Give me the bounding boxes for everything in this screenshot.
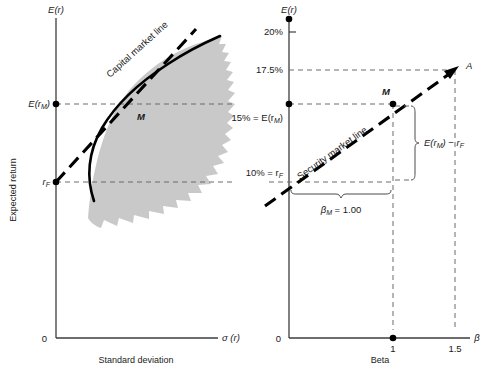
left-rf-point: [53, 179, 60, 186]
right-beta1-axis-point: [390, 335, 397, 342]
right-tick-15-label: 15% = E(rM): [231, 112, 283, 124]
right-origin-label: 0: [276, 333, 281, 344]
left-erm-tick-label: E(rM): [28, 98, 50, 110]
right-y-axis-top-point: [286, 16, 293, 23]
right-market-point-label: M: [382, 86, 391, 97]
left-x-axis-symbol: σ (r): [222, 332, 240, 343]
beta-brace: [291, 190, 391, 198]
figure-svg: 0 E(r) σ (r) E(rM) rF M Capital market l…: [0, 0, 491, 374]
right-x-axis-symbol: β: [473, 332, 480, 343]
right-x-axis-caption: Beta: [371, 355, 390, 365]
left-market-point-label: M: [137, 111, 146, 122]
right-tick-175-label: 17.5%: [256, 64, 283, 75]
left-y-axis-symbol: E(r): [48, 4, 64, 15]
right-tick-10-label: 10% = rF: [246, 167, 284, 179]
left-origin-label: 0: [42, 333, 47, 344]
right-xtick-1-label: 1: [390, 343, 395, 354]
left-rf-tick-label: rF: [43, 176, 51, 188]
figure-container: 0 E(r) σ (r) E(rM) rF M Capital market l…: [0, 0, 491, 374]
left-panel-group: 0 E(r) σ (r) E(rM) rF M Capital market l…: [8, 4, 240, 365]
security-market-line-label: Security market line: [295, 124, 369, 182]
right-panel-group: 0 E(r) β 20% 17.5% 15% = E(rM) 10% = rF …: [231, 4, 480, 365]
risk-premium-label: E(rM) − rF: [424, 137, 465, 149]
left-erm-point: [53, 101, 60, 108]
right-tick-20-label: 20%: [264, 26, 284, 37]
right-y-axis-symbol: E(r): [281, 4, 297, 15]
asset-point-label: A: [465, 60, 472, 71]
right-xtick-15-label: 1.5: [448, 343, 461, 354]
risk-premium-brace: [411, 106, 419, 180]
left-x-axis-caption: Standard deviation: [98, 355, 173, 365]
right-erm-axis-point: [286, 101, 293, 108]
left-y-axis-caption: Expected return: [8, 158, 18, 222]
beta-brace-label: βM = 1.00: [320, 204, 362, 216]
